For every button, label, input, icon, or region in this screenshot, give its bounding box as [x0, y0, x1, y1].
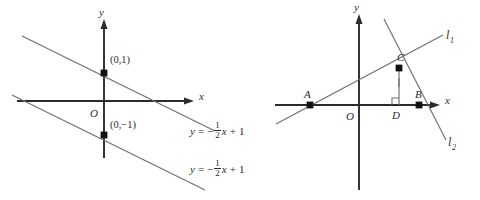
equation-lower-lhs: y [190, 163, 195, 175]
right-point-c-marker [396, 65, 403, 72]
left-label-0-1: (0,1) [110, 54, 131, 66]
right-angle-mark-d [392, 98, 399, 105]
right-point-a-label: A [303, 88, 311, 100]
left-y-axis-label: y [98, 6, 104, 18]
equation-upper-lhs: y [190, 125, 195, 137]
left-label-0-neg1: (0,−1) [110, 119, 137, 131]
right-y-axis-label: y [353, 1, 359, 13]
equation-lower-equals: = [198, 163, 204, 175]
equation-upper-variable: x [222, 125, 227, 137]
right-line-l1-subscript: 1 [450, 36, 454, 45]
right-line-l2-subscript: 2 [452, 143, 456, 152]
equation-lower-sign: − [207, 163, 213, 175]
equation-upper-denominator: 2 [214, 130, 221, 140]
left-x-axis-label: x [198, 90, 204, 102]
equation-lower-plus: + [230, 163, 236, 175]
equation-lower: y = − 1 2 x + 1 [190, 159, 244, 179]
equation-upper-sign: − [207, 125, 213, 137]
right-x-axis [275, 102, 440, 109]
right-origin-label: O [346, 110, 354, 122]
left-point-0-1-marker [101, 70, 108, 77]
right-x-axis-label: x [444, 94, 450, 106]
right-point-d-label: D [391, 109, 400, 121]
equation-upper-plus: + [230, 125, 236, 137]
right-line-l2 [384, 19, 446, 140]
right-point-b-marker [416, 102, 423, 109]
right-point-b-label: B [415, 88, 422, 100]
equation-upper-numerator: 1 [214, 121, 221, 130]
right-point-c-label: C [397, 51, 405, 63]
equation-lower-variable: x [222, 163, 227, 175]
equation-upper-fraction: 1 2 [214, 121, 221, 141]
left-point-0-neg1-marker [101, 132, 108, 139]
equation-upper-equals: = [198, 125, 204, 137]
equation-upper: y = − 1 2 x + 1 [190, 121, 244, 141]
right-figure-panel: A B C D y x O l 1 l 2 [240, 0, 480, 200]
right-line-l2-label: l 2 [448, 135, 456, 152]
left-x-axis [17, 98, 194, 105]
equation-lower-denominator: 2 [214, 168, 221, 178]
left-origin-label: O [90, 107, 98, 119]
equation-lower-fraction: 1 2 [214, 159, 221, 179]
left-figure-panel: y x O (0,1) (0,−1) y = − 1 2 x + 1 y = − [0, 0, 240, 200]
right-point-a-marker [307, 102, 314, 109]
right-line-l1-label: l 1 [446, 28, 454, 45]
left-lower-line [12, 95, 205, 190]
figure-canvas: y x O (0,1) (0,−1) y = − 1 2 x + 1 y = − [0, 0, 480, 200]
right-y-axis [356, 14, 363, 190]
equation-lower-numerator: 1 [214, 159, 221, 168]
left-upper-line [22, 36, 215, 131]
